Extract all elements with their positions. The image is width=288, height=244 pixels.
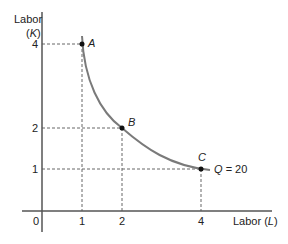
y-tick-1: 1 [32, 164, 38, 175]
isoquant-variable: Q [214, 163, 223, 175]
point-a-label: A [88, 38, 95, 49]
point-b [120, 126, 125, 131]
x-axis-label-text: Labor ( [233, 215, 268, 227]
x-tick-1: 1 [79, 216, 85, 227]
point-c [199, 167, 204, 172]
isoquant-curve [82, 36, 210, 170]
y-tick-4: 4 [32, 39, 38, 50]
point-c-label: C [198, 152, 206, 163]
y-tick-2: 2 [32, 123, 38, 134]
x-axis-label: Labor (L) [233, 216, 278, 227]
point-a [80, 42, 85, 47]
x-tick-2: 2 [119, 216, 125, 227]
isoquant-label: Q = 20 [214, 164, 247, 175]
y-axis-label-line1: Labor [14, 14, 42, 25]
x-axis-variable: L [268, 215, 274, 227]
origin-label: 0 [33, 216, 39, 227]
chart-plot-area [0, 0, 288, 244]
point-b-label: B [128, 117, 135, 128]
isoquant-value: = 20 [226, 163, 248, 175]
x-tick-4: 4 [198, 216, 204, 227]
isoquant-chart: Labor (K) 4 2 1 0 1 2 4 Labor (L) A B C … [0, 0, 288, 244]
